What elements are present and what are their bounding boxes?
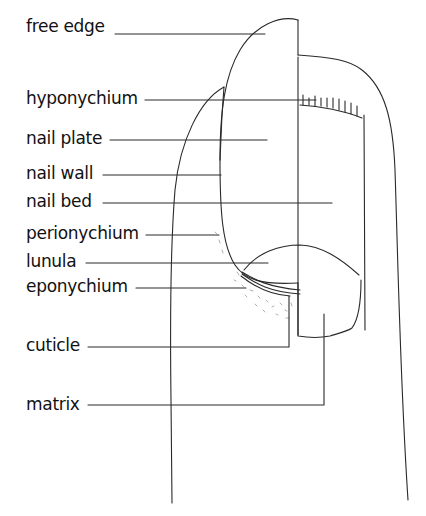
leader-cuticle bbox=[88, 296, 289, 347]
nail-anatomy-diagram: free edge hyponychium nail plate nail wa… bbox=[0, 0, 426, 516]
eponychium-curve-1 bbox=[242, 272, 300, 290]
profile-nail-plate bbox=[220, 19, 298, 284]
finger-dorsal-outline bbox=[298, 55, 408, 500]
label-free-edge: free edge bbox=[26, 18, 105, 35]
hyponychium-curve bbox=[300, 105, 362, 118]
label-lunula: lunula bbox=[26, 253, 76, 270]
nail-wall-fold bbox=[220, 87, 224, 160]
label-nail-plate: nail plate bbox=[26, 130, 102, 147]
lunula-arc bbox=[244, 245, 359, 275]
label-hyponychium: hyponychium bbox=[26, 90, 138, 107]
label-perionychium: perionychium bbox=[26, 225, 139, 242]
label-eponychium: eponychium bbox=[26, 278, 128, 295]
hyponychium-right-edge bbox=[364, 115, 365, 330]
label-nail-wall: nail wall bbox=[26, 165, 93, 182]
matrix-outline bbox=[298, 280, 361, 338]
label-nail-bed: nail bed bbox=[26, 193, 92, 210]
label-matrix: matrix bbox=[26, 396, 80, 413]
label-cuticle: cuticle bbox=[26, 337, 80, 354]
eponychium-curve-3 bbox=[241, 276, 290, 296]
finger-profile-outline bbox=[170, 87, 224, 503]
